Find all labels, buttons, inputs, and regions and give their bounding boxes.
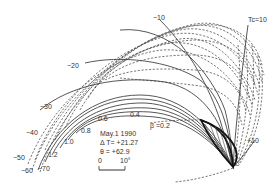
beta-curve-0.4: [68, 112, 233, 167]
scale-end-label: 10°: [120, 157, 131, 164]
label-m70: −70: [38, 165, 50, 172]
tc-curve-g: [95, 55, 250, 100]
label-m10: −10: [153, 14, 165, 21]
scale-bar: 0 10°: [98, 157, 131, 170]
diagram-figure: Tc=10 −10 −20 −30 −40 −50 −60 −70 +10 β …: [0, 0, 275, 193]
info-box: May.1 1990 Δ T= +21.27 θ = +62.9: [100, 130, 138, 155]
label-m40: −40: [26, 129, 38, 136]
label-p10: +10: [247, 137, 259, 144]
label-b06: 0.6: [98, 115, 108, 122]
label-m20: −20: [67, 62, 79, 69]
info-date: May.1 1990: [100, 130, 136, 138]
diagram-canvas: Tc=10 −10 −20 −30 −40 −50 −60 −70 +10 β …: [0, 0, 275, 193]
label-b04: 0.4: [130, 111, 140, 118]
label-tc10: Tc=10: [248, 16, 267, 23]
label-m30: −30: [40, 103, 52, 110]
label-b10: 1.0: [64, 138, 74, 145]
beta-curve-1.0: [45, 99, 233, 167]
label-b02: β =0.2: [150, 122, 170, 130]
tc-curve-f: [88, 40, 255, 98]
info-theta: θ = +62.9: [100, 148, 130, 155]
tc-curve-e: [80, 25, 262, 110]
info-delta-t: Δ T= +21.27: [100, 139, 138, 146]
tc-curve-h: [105, 69, 246, 112]
tc-tail: [175, 168, 233, 182]
label-m60: −60: [21, 167, 33, 174]
label-b08: 0.8: [81, 127, 91, 134]
label-b12: 1.2: [48, 151, 58, 158]
scale-start-label: 0: [98, 157, 102, 164]
label-m50: −50: [13, 154, 25, 161]
